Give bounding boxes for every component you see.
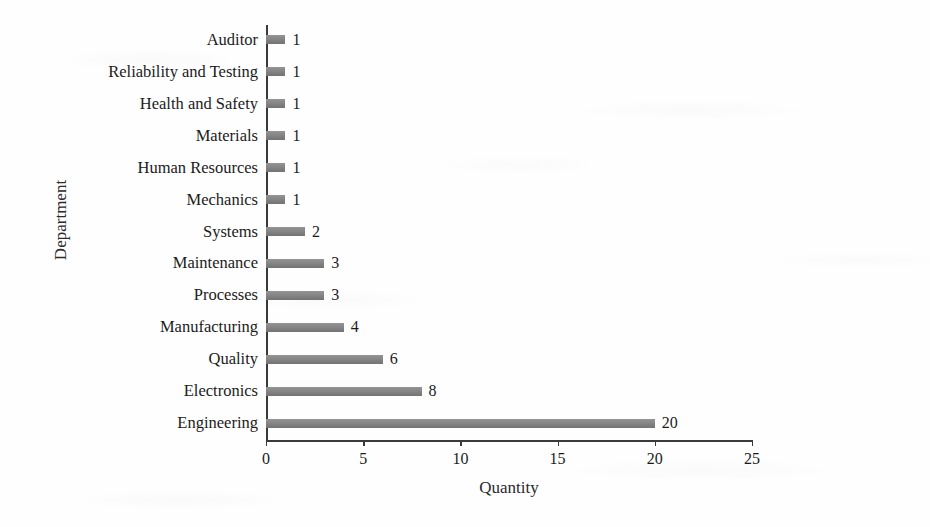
x-axis-tick-label: 25	[744, 450, 760, 468]
category-label: Health and Safety	[0, 96, 258, 113]
y-axis-category-labels: AuditorReliability and TestingHealth and…	[0, 25, 258, 440]
category-label: Reliability and Testing	[0, 64, 258, 81]
bar-row: 2	[266, 227, 320, 236]
category-label: Electronics	[0, 383, 258, 400]
x-axis-tick-mark	[655, 440, 656, 446]
bar-value-label: 1	[292, 64, 300, 80]
bar-row: 1	[266, 99, 300, 108]
bar-value-label: 3	[331, 287, 339, 303]
bar-row: 6	[266, 355, 398, 364]
bar	[266, 131, 285, 140]
bar	[266, 99, 285, 108]
bar	[266, 355, 383, 364]
bar-row: 8	[266, 387, 437, 396]
x-axis-tick-label: 10	[452, 450, 468, 468]
bar-value-label: 6	[390, 351, 398, 367]
bar	[266, 291, 324, 300]
bar	[266, 163, 285, 172]
category-label: Maintenance	[0, 255, 258, 272]
bar-value-label: 1	[292, 192, 300, 208]
category-label: Systems	[0, 224, 258, 241]
bar-row: 1	[266, 163, 300, 172]
bar-row: 3	[266, 259, 339, 268]
bar	[266, 227, 305, 236]
bar	[266, 387, 422, 396]
bar-row: 20	[266, 419, 678, 428]
x-axis-tick-mark	[266, 440, 267, 446]
category-label: Auditor	[0, 32, 258, 49]
bar-value-label: 2	[312, 224, 320, 240]
x-axis-tick-mark	[558, 440, 559, 446]
bar	[266, 259, 324, 268]
category-label: Human Resources	[0, 160, 258, 177]
bar-row: 3	[266, 291, 339, 300]
bar-row: 1	[266, 67, 300, 76]
x-axis-line	[266, 440, 753, 442]
bar-value-label: 1	[292, 96, 300, 112]
horizontal-bar-chart: Department AuditorReliability and Testin…	[0, 0, 930, 527]
bar-row: 1	[266, 131, 300, 140]
bar-row: 1	[266, 195, 300, 204]
category-label: Manufacturing	[0, 319, 258, 336]
bar-value-label: 20	[662, 415, 678, 431]
category-label: Materials	[0, 128, 258, 145]
bar-value-label: 1	[292, 160, 300, 176]
bar	[266, 323, 344, 332]
x-axis-tick-label: 0	[262, 450, 270, 468]
plot-area: 11111123346820 0510152025	[266, 25, 752, 440]
category-label: Quality	[0, 351, 258, 368]
bar	[266, 419, 655, 428]
x-axis-tick-mark	[752, 440, 753, 446]
bar-value-label: 4	[351, 319, 359, 335]
bar-row: 4	[266, 323, 359, 332]
category-label: Processes	[0, 287, 258, 304]
bar	[266, 67, 285, 76]
x-axis-tick-label: 5	[359, 450, 367, 468]
bar	[266, 195, 285, 204]
x-axis-title: Quantity	[266, 478, 752, 498]
bar-value-label: 3	[331, 255, 339, 271]
category-label: Mechanics	[0, 192, 258, 209]
x-axis-tick-mark	[363, 440, 364, 446]
bar-row: 1	[266, 35, 300, 44]
x-axis-tick-label: 15	[550, 450, 566, 468]
bar-value-label: 1	[292, 32, 300, 48]
x-axis-tick-mark	[460, 440, 461, 446]
bar-value-label: 1	[292, 128, 300, 144]
bar	[266, 35, 285, 44]
x-axis-tick-label: 20	[647, 450, 663, 468]
bar-value-label: 8	[429, 383, 437, 399]
category-label: Engineering	[0, 415, 258, 432]
